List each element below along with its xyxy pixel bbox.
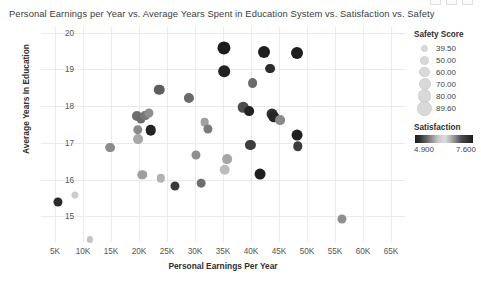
data-point-bubble[interactable] (275, 115, 285, 125)
legend-size-title: Safety Score (414, 30, 480, 39)
data-point-bubble[interactable] (197, 179, 206, 188)
data-point-bubble[interactable] (244, 106, 254, 116)
data-point-bubble[interactable] (53, 197, 62, 206)
data-point-bubble[interactable] (248, 78, 258, 88)
data-point-bubble[interactable] (170, 182, 179, 191)
legend-size-row: 70.00 (416, 78, 480, 90)
x-axis-tick-label: 5K (40, 247, 70, 256)
legend-size-swatch (420, 56, 429, 65)
data-point-bubble[interactable] (87, 236, 93, 242)
legend-size-items: 39.5050.0060.0070.0080.0089.60 (414, 42, 480, 114)
x-axis-tick-label: 60K (348, 247, 378, 256)
y-axis-tick-label: 16 (44, 175, 74, 184)
data-point-bubble[interactable] (203, 124, 212, 133)
chart-title: Personal Earnings per Year vs. Average Y… (9, 8, 434, 19)
legend-color-block: Satisfaction 4.900 7.600 (414, 123, 480, 154)
legend-size-label: 70.00 (436, 80, 456, 89)
legend-size-label: 39.50 (436, 44, 456, 53)
data-points-layer (41, 27, 405, 242)
legend-size-label: 89.60 (436, 104, 456, 113)
x-axis-tick-label: 55K (320, 247, 350, 256)
x-axis-title: Personal Earnings Per Year (41, 261, 405, 271)
x-axis-tick-label: 30K (180, 247, 210, 256)
legend-size-swatch-wrap (416, 56, 433, 65)
minimize-icon[interactable] (430, 0, 441, 5)
data-point-bubble[interactable] (291, 47, 303, 59)
x-axis-tick-label: 45K (264, 247, 294, 256)
y-axis-tick-label: 18 (44, 102, 74, 111)
color-gradient-scale: 4.900 7.600 (414, 145, 476, 154)
data-point-bubble[interactable] (184, 93, 194, 103)
data-point-bubble[interactable] (292, 129, 303, 140)
data-point-bubble[interactable] (157, 174, 165, 182)
y-axis-title: Average Years In Education (21, 29, 31, 169)
legend-size-label: 50.00 (436, 56, 456, 65)
legend-size-row: 50.00 (416, 54, 480, 66)
plot-area (41, 27, 405, 242)
close-icon[interactable] (462, 0, 473, 5)
legend-size-row: 39.50 (416, 42, 480, 54)
data-point-bubble[interactable] (222, 154, 232, 164)
data-point-bubble[interactable] (154, 85, 165, 96)
data-point-bubble[interactable] (255, 168, 266, 179)
data-point-bubble[interactable] (72, 191, 79, 198)
color-gradient-bar (415, 135, 473, 143)
data-point-bubble[interactable] (191, 150, 200, 159)
data-point-bubble[interactable] (106, 143, 116, 153)
data-point-bubble[interactable] (133, 125, 142, 134)
x-axis-tick-label: 25K (152, 247, 182, 256)
legend-size-swatch-wrap (416, 101, 433, 116)
data-point-bubble[interactable] (338, 214, 347, 223)
legend-size-row: 89.60 (416, 102, 480, 114)
legend-size-swatch (421, 45, 428, 52)
data-point-bubble[interactable] (218, 41, 231, 54)
legend: Safety Score 39.5050.0060.0070.0080.0089… (414, 30, 480, 154)
legend-size-label: 80.00 (436, 92, 456, 101)
data-point-bubble[interactable] (219, 165, 230, 176)
x-axis-tick-label: 10K (68, 247, 98, 256)
data-point-bubble[interactable] (134, 134, 144, 144)
scatter-chart-figure: Personal Earnings per Year vs. Average Y… (0, 0, 481, 282)
color-min-label: 4.900 (414, 145, 434, 154)
y-axis-tick-label: 17 (44, 138, 74, 147)
data-point-bubble[interactable] (138, 170, 147, 179)
data-point-bubble[interactable] (293, 142, 302, 151)
legend-size-label: 60.00 (436, 68, 456, 77)
color-max-label: 7.600 (456, 145, 476, 154)
data-point-bubble[interactable] (218, 65, 230, 77)
data-point-bubble[interactable] (245, 140, 255, 150)
legend-size-swatch-wrap (416, 78, 433, 90)
legend-size-swatch (417, 101, 432, 116)
data-point-bubble[interactable] (145, 125, 156, 136)
window-controls[interactable] (430, 0, 473, 6)
x-axis-tick-label: 20K (124, 247, 154, 256)
maximize-icon[interactable] (446, 0, 457, 5)
legend-size-swatch (419, 67, 430, 78)
x-axis-tick-label: 35K (208, 247, 238, 256)
data-point-bubble[interactable] (265, 64, 275, 74)
x-axis-tick-label: 40K (236, 247, 266, 256)
legend-size-swatch-wrap (416, 45, 433, 52)
y-axis-tick-label: 15 (44, 212, 74, 221)
x-axis-tick-label: 65K (376, 247, 406, 256)
data-point-bubble[interactable] (145, 109, 154, 118)
legend-color-title: Satisfaction (414, 123, 480, 132)
data-point-bubble[interactable] (258, 46, 270, 58)
legend-size-swatch (419, 78, 431, 90)
y-axis-tick-label: 19 (44, 65, 74, 74)
legend-size-row: 60.00 (416, 66, 480, 78)
legend-size-swatch-wrap (416, 67, 433, 78)
x-axis-tick-label: 50K (292, 247, 322, 256)
y-axis-tick-label: 20 (44, 28, 74, 37)
x-axis-tick-label: 15K (96, 247, 126, 256)
